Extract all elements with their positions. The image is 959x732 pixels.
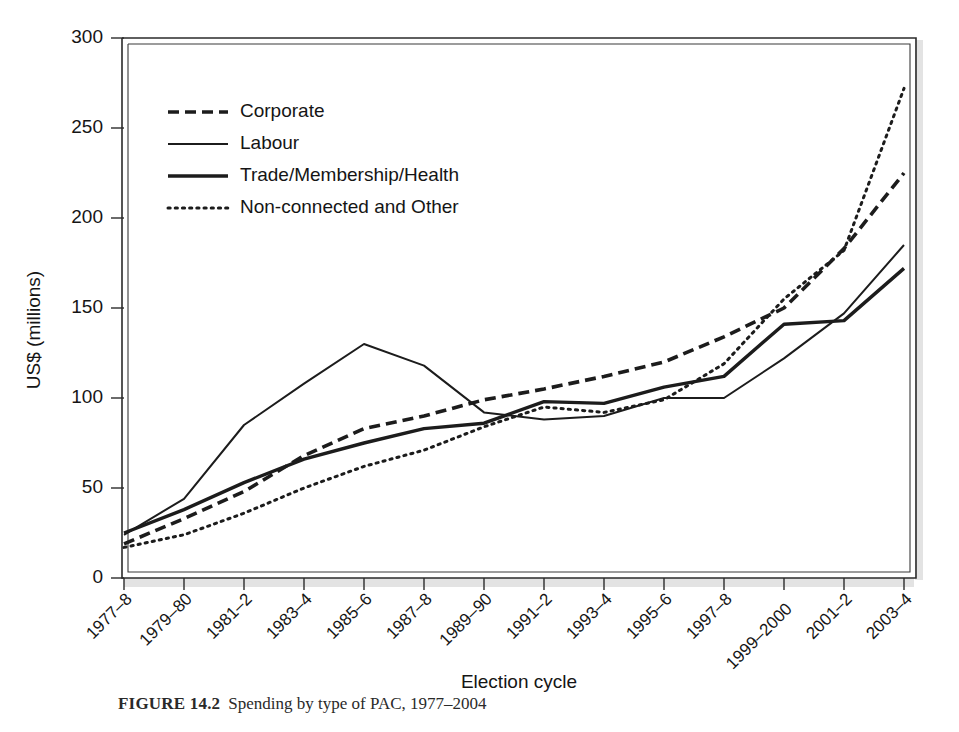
plot-frame-inner <box>128 44 910 572</box>
ytick-label: 150 <box>71 296 103 317</box>
xtick-label: 1979–80 <box>136 589 196 649</box>
xtick-label: 1983–4 <box>262 589 316 643</box>
xtick-label: 2001–2 <box>802 589 856 643</box>
ytick-label: 50 <box>82 476 103 497</box>
xtick-label: 1985–6 <box>322 589 376 643</box>
xtick-label: 2003–4 <box>862 589 916 643</box>
figure-caption: FIGURE 14.2Spending by type of PAC, 1977… <box>118 694 818 714</box>
y-axis-tick-labels: 0 50 100 150 200 250 300 <box>71 26 103 587</box>
series-corporate <box>124 173 904 544</box>
ytick-label: 0 <box>92 566 103 587</box>
xtick-label: 1977–8 <box>82 589 136 643</box>
y-axis-title: US$ (millions) <box>23 271 44 389</box>
xtick-label: 1997–8 <box>682 589 736 643</box>
figure-container: 0 50 100 150 200 250 300 US$ (millions) <box>0 0 959 732</box>
xtick-label: 1999–2000 <box>722 599 796 673</box>
legend: Corporate Labour Trade/Membership/Health… <box>168 100 459 217</box>
figure-caption-text: Spending by type of PAC, 1977–2004 <box>228 694 486 713</box>
ytick-label: 300 <box>71 26 103 47</box>
ytick-label: 100 <box>71 386 103 407</box>
ytick-label: 200 <box>71 206 103 227</box>
xtick-label: 1993–4 <box>562 589 616 643</box>
line-chart: 0 50 100 150 200 250 300 US$ (millions) <box>0 0 959 732</box>
ytick-label: 250 <box>71 116 103 137</box>
xtick-label: 1987–8 <box>382 589 436 643</box>
legend-label-labour: Labour <box>240 132 300 153</box>
figure-caption-label: FIGURE 14.2 <box>118 694 220 713</box>
legend-label-trade-membership-health: Trade/Membership/Health <box>240 164 459 185</box>
xtick-label: 1995–6 <box>622 589 676 643</box>
series-non-connected-and-other <box>124 88 904 547</box>
x-axis-tick-labels: 1977–8 1979–80 1981–2 1983–4 1985–6 1987… <box>82 589 916 673</box>
series-group <box>124 88 904 547</box>
legend-label-corporate: Corporate <box>240 100 325 121</box>
x-axis-title: Election cycle <box>461 671 577 692</box>
axis-shadow <box>124 578 914 587</box>
xtick-label: 1991–2 <box>502 589 556 643</box>
legend-label-non-connected-and-other: Non-connected and Other <box>240 196 459 217</box>
xtick-label: 1989–90 <box>436 589 496 649</box>
xtick-label: 1981–2 <box>202 589 256 643</box>
